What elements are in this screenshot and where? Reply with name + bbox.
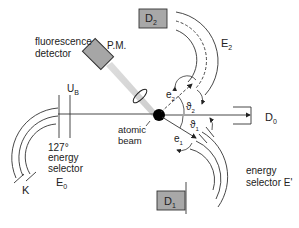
svg-text:E2: E2 bbox=[221, 37, 232, 51]
svg-text:P.M.: P.M. bbox=[107, 40, 126, 51]
label-d2: D bbox=[145, 12, 153, 24]
label-d0-sub: 0 bbox=[273, 118, 277, 125]
svg-text:ϑ2: ϑ2 bbox=[186, 101, 195, 114]
svg-text:ϑ1: ϑ1 bbox=[190, 119, 199, 132]
label-atomic: atomic bbox=[118, 124, 146, 135]
energy-selector-e1 bbox=[186, 127, 228, 214]
energy-selector-e2 bbox=[176, 12, 218, 95]
detector-d0 bbox=[233, 107, 251, 124]
label-theta1-sub: 1 bbox=[195, 126, 199, 132]
theta2-rotation-arrow bbox=[197, 90, 203, 104]
label-energy: energy bbox=[48, 152, 79, 163]
fluorescence-cone bbox=[106, 62, 160, 116]
svg-text:fluorescence: fluorescence bbox=[35, 36, 92, 47]
label-e1-small-sub: 1 bbox=[180, 140, 184, 146]
label-d1-sub: 1 bbox=[172, 202, 176, 209]
theta2-arc bbox=[178, 96, 184, 114]
setup-diagram: fluorescence detector P.M. D2 E2 UB e2 ϑ… bbox=[0, 0, 299, 228]
svg-text:D0: D0 bbox=[265, 111, 277, 125]
svg-text:energy: energy bbox=[246, 165, 277, 176]
svg-text:e2: e2 bbox=[166, 89, 176, 102]
atomic-target bbox=[153, 109, 165, 121]
label-selector-eprime: selector E' bbox=[246, 177, 292, 188]
label-selector: selector bbox=[48, 163, 84, 174]
svg-text:selector: selector bbox=[48, 163, 84, 174]
label-e2: E bbox=[221, 37, 228, 49]
label-e0-sub: 0 bbox=[63, 183, 67, 190]
svg-text:selector E': selector E' bbox=[246, 177, 292, 188]
svg-text:E0: E0 bbox=[56, 176, 67, 190]
label-d2-sub: 2 bbox=[153, 19, 157, 26]
label-k: K bbox=[22, 184, 30, 196]
theta1-arc bbox=[180, 116, 183, 128]
label-ub-sub: B bbox=[74, 89, 79, 96]
label-e0: E bbox=[56, 176, 63, 188]
label-d0: D bbox=[265, 111, 273, 123]
label-fluorescence: fluorescence bbox=[35, 36, 92, 47]
svg-text:K: K bbox=[22, 184, 30, 196]
label-theta2-sub: 2 bbox=[191, 108, 195, 114]
e2-rotation-arrow bbox=[175, 76, 196, 87]
diagram-canvas: fluorescence detector P.M. D2 E2 UB e2 ϑ… bbox=[0, 0, 299, 228]
svg-text:e1: e1 bbox=[174, 133, 184, 146]
svg-text:energy: energy bbox=[48, 152, 79, 163]
label-beam: beam bbox=[118, 135, 142, 146]
svg-text:detector: detector bbox=[35, 48, 72, 59]
theta1-rotation-arrow bbox=[210, 118, 213, 130]
svg-text:atomic: atomic bbox=[118, 124, 146, 135]
label-e2-small-sub: 2 bbox=[172, 96, 176, 102]
label-ub: U bbox=[67, 83, 74, 94]
label-e2-sub: 2 bbox=[228, 44, 232, 51]
atomic-beam-pointer bbox=[146, 121, 150, 126]
label-energy-2: energy bbox=[246, 165, 277, 176]
svg-text:UB: UB bbox=[67, 83, 79, 96]
label-d1: D bbox=[164, 195, 172, 207]
label-detector: detector bbox=[35, 48, 72, 59]
svg-text:beam: beam bbox=[118, 135, 142, 146]
label-pm: P.M. bbox=[107, 40, 126, 51]
